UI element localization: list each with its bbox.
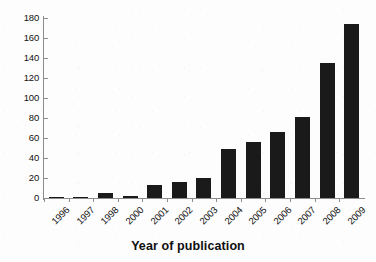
- x-axis-title: Year of publication: [0, 239, 376, 253]
- bar: [246, 142, 261, 198]
- x-tick-mark: [192, 198, 193, 202]
- bar: [147, 185, 162, 198]
- x-label-slot: 1997: [69, 203, 94, 237]
- x-label-slot: 2001: [142, 203, 167, 237]
- x-label-slot: 2009: [339, 203, 364, 237]
- x-tick-mark: [241, 198, 242, 202]
- x-tick-mark: [315, 198, 316, 202]
- x-label-slot: 2006: [265, 203, 290, 237]
- y-tick-label: 40: [29, 153, 44, 163]
- y-tick-label: 80: [29, 113, 44, 123]
- y-tick-label: 140: [24, 53, 44, 63]
- x-axis-tick-labels: 1996199719982000200120022003200420052006…: [44, 203, 364, 237]
- x-tick-mark: [265, 198, 266, 202]
- x-tick-slot: [118, 198, 143, 202]
- x-label-slot: 1996: [44, 203, 69, 237]
- bar-slot: [44, 18, 69, 198]
- x-tick-slot: [241, 198, 266, 202]
- x-tick-slot: [44, 198, 69, 202]
- bar-slot: [93, 18, 118, 198]
- x-tick-slot: [167, 198, 192, 202]
- x-tick-slot: [339, 198, 364, 202]
- y-tick-label: 180: [24, 13, 44, 23]
- x-tick-mark: [216, 198, 217, 202]
- bar-slot: [142, 18, 167, 198]
- x-tick-slot: [93, 198, 118, 202]
- bar-series: [44, 18, 364, 198]
- x-tick-slot: [290, 198, 315, 202]
- x-label-slot: 1998: [93, 203, 118, 237]
- y-tick-label: 60: [29, 133, 44, 143]
- bar-slot: [118, 18, 143, 198]
- bar: [295, 117, 310, 198]
- y-tick-label: 120: [24, 73, 44, 83]
- x-tick-mark: [339, 198, 340, 202]
- x-tick-mark: [167, 198, 168, 202]
- bar-slot: [167, 18, 192, 198]
- bar-chart: 020406080100120140160180 199619971998200…: [0, 0, 376, 262]
- x-label-slot: 2002: [167, 203, 192, 237]
- x-tick-slot: [142, 198, 167, 202]
- y-tick-label: 20: [29, 173, 44, 183]
- x-tick-mark: [290, 198, 291, 202]
- x-tick-slot: [265, 198, 290, 202]
- x-tick-mark: [93, 198, 94, 202]
- x-axis-ticks: [44, 198, 364, 202]
- x-tick-slot: [216, 198, 241, 202]
- bar-slot: [339, 18, 364, 198]
- x-label-slot: 2005: [241, 203, 266, 237]
- x-label-slot: 2000: [118, 203, 143, 237]
- x-tick-mark: [69, 198, 70, 202]
- x-tick-mark: [142, 198, 143, 202]
- x-tick-slot: [192, 198, 217, 202]
- x-label-slot: 2004: [216, 203, 241, 237]
- x-label-slot: 2008: [315, 203, 340, 237]
- bar-slot: [265, 18, 290, 198]
- bar: [344, 24, 359, 198]
- bar: [221, 149, 236, 198]
- bar-slot: [192, 18, 217, 198]
- bar-slot: [290, 18, 315, 198]
- bar-slot: [216, 18, 241, 198]
- y-tick-label: 160: [24, 33, 44, 43]
- y-tick-label: 0: [34, 193, 44, 203]
- x-tick-slot: [315, 198, 340, 202]
- x-tick-mark: [118, 198, 119, 202]
- bar: [196, 178, 211, 198]
- bar-slot: [241, 18, 266, 198]
- x-tick-mark: [44, 198, 45, 202]
- x-tick-label: 2009: [346, 205, 367, 226]
- bar: [172, 182, 187, 198]
- bar: [270, 132, 285, 198]
- x-tick-slot: [69, 198, 94, 202]
- bar: [320, 63, 335, 198]
- y-tick-label: 100: [24, 93, 44, 103]
- x-label-slot: 2003: [192, 203, 217, 237]
- bar-slot: [315, 18, 340, 198]
- bar-slot: [69, 18, 94, 198]
- x-label-slot: 2007: [290, 203, 315, 237]
